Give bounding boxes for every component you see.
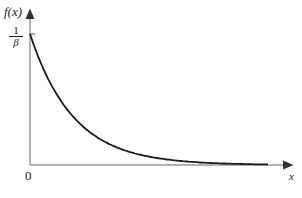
y-axis-label: f(x) [4,4,22,20]
origin-label: 0 [25,168,32,184]
exponential-density-plot [0,0,302,198]
density-curve [30,34,268,165]
x-axis-label: x [289,170,294,182]
y-tick-label: 1 β [9,25,23,48]
